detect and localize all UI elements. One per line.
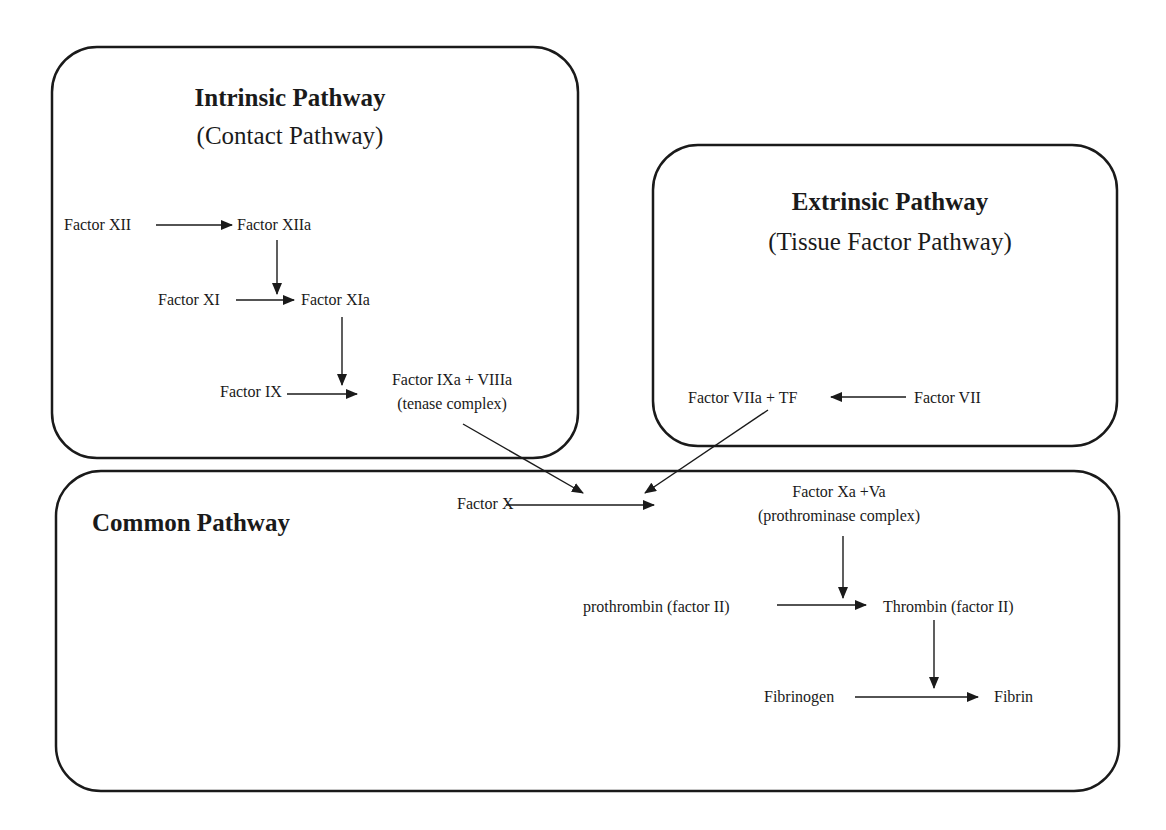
node-prothrominase-complex-note: (prothrominase complex) bbox=[758, 507, 920, 525]
coagulation-cascade-diagram: Intrinsic Pathway (Contact Pathway) Extr… bbox=[0, 0, 1166, 830]
node-factor-ix: Factor IX bbox=[220, 383, 282, 400]
node-factor-ixa-viiia: Factor IXa + VIIIa bbox=[392, 371, 512, 388]
node-fibrin: Fibrin bbox=[994, 688, 1033, 705]
arrow-viia-tf-to-factor-x bbox=[645, 410, 768, 493]
node-factor-x: Factor X bbox=[457, 495, 514, 512]
extrinsic-pathway-title: Extrinsic Pathway bbox=[792, 188, 989, 215]
node-fibrinogen: Fibrinogen bbox=[764, 688, 834, 706]
node-factor-xi: Factor XI bbox=[158, 291, 220, 308]
intrinsic-pathway-subtitle: (Contact Pathway) bbox=[197, 122, 384, 150]
node-factor-xa-va: Factor Xa +Va bbox=[792, 483, 885, 500]
common-pathway-title: Common Pathway bbox=[92, 509, 290, 536]
intrinsic-pathway-title: Intrinsic Pathway bbox=[195, 84, 386, 111]
node-tenase-complex-note: (tenase complex) bbox=[397, 395, 507, 413]
node-prothrombin: prothrombin (factor II) bbox=[583, 598, 730, 616]
node-thrombin: Thrombin (factor II) bbox=[883, 598, 1014, 616]
node-factor-vii: Factor VII bbox=[914, 389, 981, 406]
extrinsic-pathway-subtitle: (Tissue Factor Pathway) bbox=[768, 228, 1012, 256]
node-factor-xia: Factor XIa bbox=[301, 291, 370, 308]
node-factor-xii: Factor XII bbox=[64, 216, 131, 233]
node-factor-xiia: Factor XIIa bbox=[237, 216, 311, 233]
node-factor-viia-tf: Factor VIIa + TF bbox=[688, 389, 797, 406]
